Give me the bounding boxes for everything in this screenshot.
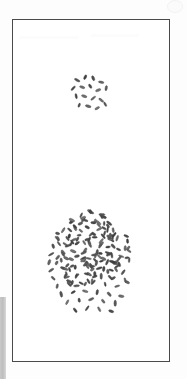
grain-particle: [91, 75, 95, 81]
grain-particle: [63, 267, 68, 271]
grain-particle: [99, 213, 105, 215]
grain-particle: [114, 267, 118, 273]
grain-particle: [78, 228, 83, 232]
grain-particle: [77, 221, 83, 225]
grain-particle: [95, 289, 98, 295]
grain-particle: [103, 221, 105, 225]
grain-particle: [103, 101, 107, 106]
grain-particle: [65, 263, 70, 268]
grain-particle: [108, 268, 113, 271]
grain-particle: [112, 227, 115, 232]
grain-particle: [67, 227, 72, 232]
grain-particle: [60, 258, 63, 263]
grain-particle: [74, 254, 80, 258]
grain-particle: [88, 297, 94, 301]
grain-particle: [104, 85, 107, 91]
grain-particle: [94, 106, 100, 110]
grain-particle: [48, 267, 54, 272]
grain-particle: [85, 257, 91, 260]
grain-particle: [55, 231, 60, 235]
grain-particle: [84, 225, 90, 230]
grain-particle: [70, 85, 75, 90]
scan-page-canvas: [0, 0, 187, 379]
corner-artifact-icon: [167, 0, 183, 13]
grain-particle: [48, 252, 54, 257]
grain-particle: [88, 209, 92, 214]
grain-particle: [55, 283, 58, 288]
grain-particle: [69, 264, 74, 268]
grain-particle: [85, 104, 91, 108]
grain-particle: [54, 260, 58, 265]
grain-particle: [90, 221, 95, 224]
grain-particle: [47, 259, 51, 265]
grain-particle: [109, 259, 116, 263]
grain-particle: [102, 266, 105, 272]
grain-particle: [77, 103, 80, 108]
particle-cluster-large: [44, 206, 134, 316]
grain-particle: [74, 241, 80, 246]
grain-particle: [70, 290, 75, 294]
grain-particle: [88, 83, 93, 88]
grain-particle: [97, 254, 102, 259]
grain-particle: [68, 257, 74, 261]
particle-marker-group: [44, 206, 134, 316]
grain-particle: [83, 281, 87, 286]
grain-particle: [104, 282, 107, 287]
grain-particle: [98, 252, 102, 255]
grain-particle: [106, 291, 111, 297]
grain-particle: [110, 252, 113, 258]
grain-particle: [118, 294, 124, 297]
grain-particle: [123, 234, 129, 238]
grain-particle: [100, 273, 102, 279]
grain-particle: [72, 307, 77, 313]
grain-particle: [65, 299, 69, 305]
grain-particle: [79, 85, 85, 89]
grain-particle: [120, 269, 125, 275]
grain-particle: [70, 249, 77, 254]
ghost-artifact-line: [19, 36, 79, 39]
grain-particle: [101, 298, 106, 303]
grain-particle: [78, 281, 83, 285]
grain-particle: [74, 78, 80, 83]
grain-particle: [77, 298, 80, 303]
grain-particle: [93, 271, 96, 276]
ghost-artifact-line: [91, 34, 139, 37]
grain-particle: [98, 97, 104, 102]
grain-particle: [51, 243, 55, 248]
grain-particle: [74, 273, 77, 278]
grain-particle: [115, 235, 119, 241]
grain-particle: [116, 247, 121, 251]
grain-particle: [110, 243, 116, 249]
grain-particle: [82, 289, 88, 293]
grain-particle: [98, 80, 104, 83]
grain-particle: [124, 280, 130, 284]
grain-particle: [56, 236, 60, 241]
scan-margin-bar: [0, 297, 6, 379]
grain-particle: [99, 259, 104, 262]
grain-particle: [103, 230, 106, 235]
grain-particle: [105, 246, 110, 248]
grain-particle: [87, 241, 92, 247]
grain-particle: [77, 234, 82, 236]
particle-cluster-small: [68, 72, 111, 113]
grain-particle: [96, 227, 102, 231]
grain-particle: [101, 226, 106, 230]
grain-particle: [81, 94, 87, 98]
grain-particle: [126, 238, 129, 243]
grain-particle: [68, 267, 71, 272]
grain-particle: [91, 232, 96, 236]
particle-marker-group: [68, 72, 111, 113]
grain-particle: [98, 243, 102, 248]
grain-particle: [59, 291, 63, 298]
grain-particle: [114, 300, 117, 306]
grain-particle: [92, 236, 97, 238]
grain-particle: [106, 269, 109, 274]
grain-particle: [50, 276, 55, 281]
grain-particle: [75, 93, 78, 99]
grain-particle: [126, 245, 131, 250]
grain-particle: [96, 266, 103, 270]
grain-particle: [85, 305, 90, 311]
grain-particle: [57, 241, 61, 246]
grain-particle: [124, 245, 127, 251]
grain-particle: [83, 74, 87, 80]
